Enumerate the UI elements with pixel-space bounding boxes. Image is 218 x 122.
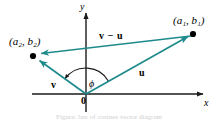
vector-diagram-figure: (a₁, b₁) (a₂, b₂) v − u u v ϕ y x 0 Figu… xyxy=(0,0,218,122)
angle-arc-phi xyxy=(65,68,109,81)
angle-label-phi: ϕ xyxy=(89,79,94,89)
origin-label: 0 xyxy=(81,96,86,106)
vector-label-u: u xyxy=(139,68,145,78)
vector-u xyxy=(86,37,188,95)
point-label-a2b2: (a₂, b₂) xyxy=(9,36,40,47)
figure-caption: Figure: law of cosines vector diagram xyxy=(0,113,218,122)
vector-v xyxy=(40,61,87,95)
point-a2b2-dot xyxy=(30,53,36,59)
x-axis-label: x xyxy=(204,98,208,108)
point-label-a1b1: (a₁, b₁) xyxy=(173,15,204,26)
point-a1b1-dot xyxy=(190,31,196,37)
vector-label-v-minus-u: v − u xyxy=(99,31,123,41)
y-axis-label: y xyxy=(80,2,84,12)
vector-label-v: v xyxy=(51,80,56,90)
